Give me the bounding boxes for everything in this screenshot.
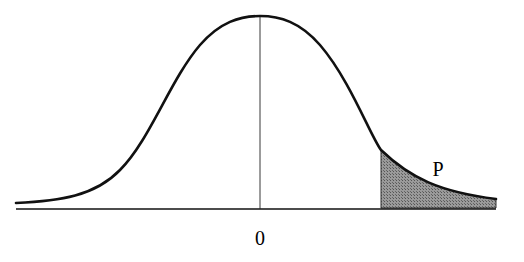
bell-curve (16, 16, 496, 203)
normal-distribution-figure: 0 P (0, 0, 524, 262)
center-tick-label: 0 (255, 227, 265, 249)
shaded-area-label: P (432, 158, 443, 180)
